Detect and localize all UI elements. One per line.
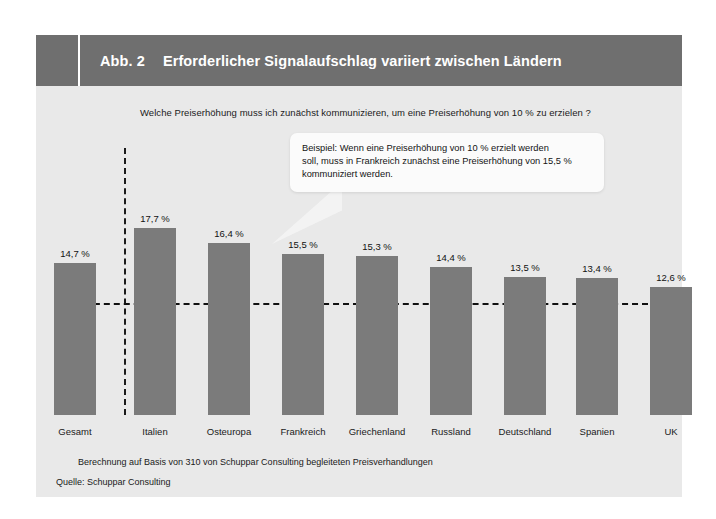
bar-gesamt[interactable] — [54, 263, 96, 415]
bar-value-label: 14,4 % — [424, 252, 478, 263]
bar-group: 14,4 % — [430, 267, 472, 415]
bar-russland[interactable] — [430, 267, 472, 415]
category-label-osteuropa: Osteuropa — [190, 426, 268, 437]
bar-group: 15,5 % — [282, 254, 324, 415]
bar-frankreich[interactable] — [282, 254, 324, 415]
bar-griechenland[interactable] — [356, 256, 398, 415]
bar-value-label: 13,4 % — [570, 263, 624, 274]
category-label-griechenland: Griechenland — [338, 426, 416, 437]
bar-group: 15,3 % — [356, 256, 398, 415]
category-label-gesamt: Gesamt — [36, 426, 114, 437]
figure-number: Abb. 2 — [100, 53, 145, 69]
category-label-spanien: Spanien — [558, 426, 636, 437]
category-separator-line — [124, 148, 126, 415]
chart-panel: Welche Preiserhöhung muss ich zunächst k… — [36, 86, 682, 497]
figure-header-band: Abb. 2 Erforderlicher Signalaufschlag va… — [80, 35, 682, 86]
bar-group: 13,4 % — [576, 278, 618, 415]
bar-value-label: 15,3 % — [350, 241, 404, 252]
bar-deutschland[interactable] — [504, 277, 546, 415]
bar-spanien[interactable] — [576, 278, 618, 415]
category-label-uk: UK — [632, 426, 710, 437]
header-inner: Abb. 2 Erforderlicher Signalaufschlag va… — [100, 35, 562, 86]
bar-value-label: 14,7 % — [48, 248, 102, 259]
figure-container: Abb. 2 Erforderlicher Signalaufschlag va… — [0, 0, 716, 519]
bar-uk[interactable] — [650, 287, 692, 415]
category-label-italien: Italien — [116, 426, 194, 437]
callout-line-2: soll, muss in Frankreich zunächst eine P… — [302, 155, 592, 168]
category-label-russland: Russland — [412, 426, 490, 437]
footnote-source: Quelle: Schuppar Consulting — [56, 477, 171, 487]
bar-group: 12,6 % — [650, 287, 692, 415]
bar-value-label: 12,6 % — [644, 272, 698, 283]
bar-value-label: 15,5 % — [276, 239, 330, 250]
plot-area: Ziel: 10 % 14,7 % 17,7 % 16,4 % 15,5 % 1… — [36, 86, 682, 497]
callout-line-1: Beispiel: Wenn eine Preiserhöhung von 10… — [302, 142, 592, 155]
bar-italien[interactable] — [134, 228, 176, 415]
bar-value-label: 16,4 % — [202, 228, 256, 239]
footnote-basis: Berechnung auf Basis von 310 von Schuppa… — [78, 457, 433, 467]
bar-osteuropa[interactable] — [208, 243, 250, 415]
bar-group: 13,5 % — [504, 277, 546, 415]
bar-group: 14,7 % — [54, 263, 96, 415]
callout-line-3: kommuniziert werden. — [302, 168, 592, 181]
bar-value-label: 13,5 % — [498, 262, 552, 273]
bar-group: 16,4 % — [208, 243, 250, 415]
category-label-deutschland: Deutschland — [486, 426, 564, 437]
bar-group: 17,7 % — [134, 228, 176, 415]
bar-value-label: 17,7 % — [128, 213, 182, 224]
callout-box: Beispiel: Wenn eine Preiserhöhung von 10… — [290, 133, 604, 192]
page-title: Erforderlicher Signalaufschlag variiert … — [163, 53, 562, 69]
category-label-frankreich: Frankreich — [264, 426, 342, 437]
decorative-corner-tab — [36, 35, 78, 86]
